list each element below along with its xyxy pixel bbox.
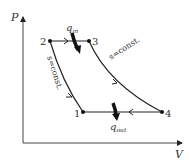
q-in-label: qin (66, 22, 78, 34)
pv-diagram: P V 1 2 3 4 qin qout s=const. s=const. (0, 0, 193, 162)
process-heat-rejection (83, 109, 162, 115)
point-label-1: 1 (74, 108, 80, 119)
q-out-label: qout (110, 121, 127, 133)
heat-in-arrow-icon (72, 33, 81, 54)
state-point-3 (87, 39, 91, 43)
expansion-isentropic-label: s=const. (107, 35, 141, 62)
x-axis-label: V (175, 148, 184, 161)
point-label-4: 4 (165, 108, 171, 119)
point-label-3: 3 (92, 36, 98, 47)
y-axis-label: P (10, 11, 19, 24)
point-label-2: 2 (40, 36, 46, 47)
state-point-1 (81, 110, 85, 114)
state-point-4 (160, 110, 164, 114)
state-point-2 (48, 39, 52, 43)
process-heat-addition (50, 38, 89, 44)
